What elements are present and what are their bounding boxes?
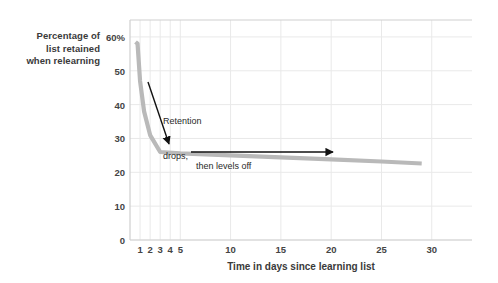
annotation-then-levels-off: then levels off xyxy=(196,138,251,196)
retention-curve-chart: Percentage of list retained when relearn… xyxy=(0,0,498,283)
x-axis-title: Time in days since learning list xyxy=(130,261,472,272)
annotation-then-levels-off-line-1: then levels off xyxy=(196,161,251,173)
annotation-retention-drops-line-1: Retention xyxy=(163,116,202,128)
